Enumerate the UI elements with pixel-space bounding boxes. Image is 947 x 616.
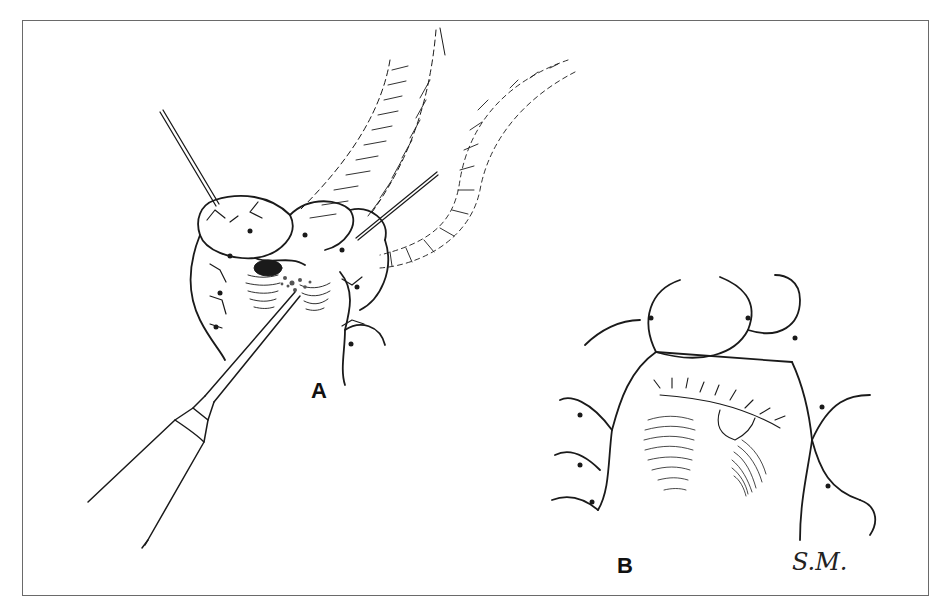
vessel-branches xyxy=(207,202,364,328)
probe-instrument xyxy=(88,292,300,548)
hatched-tube-right xyxy=(380,60,575,268)
artist-signature: S.M. xyxy=(792,548,847,576)
panel-label-a: A xyxy=(311,378,327,404)
panel-b-illustration xyxy=(552,275,875,540)
needle-left xyxy=(160,110,219,206)
needle-right xyxy=(356,172,438,240)
vessel-nodes xyxy=(214,229,360,347)
hatched-tube-large xyxy=(300,28,445,218)
panel-label-b: B xyxy=(617,553,633,579)
panel-b-vessels xyxy=(654,378,785,440)
tissue-lobes xyxy=(191,196,389,385)
surgical-illustration xyxy=(0,0,947,616)
panel-a-illustration xyxy=(88,28,575,548)
debris xyxy=(281,276,312,292)
panel-b-nodes xyxy=(578,316,831,505)
panel-b-hatching xyxy=(644,416,766,496)
